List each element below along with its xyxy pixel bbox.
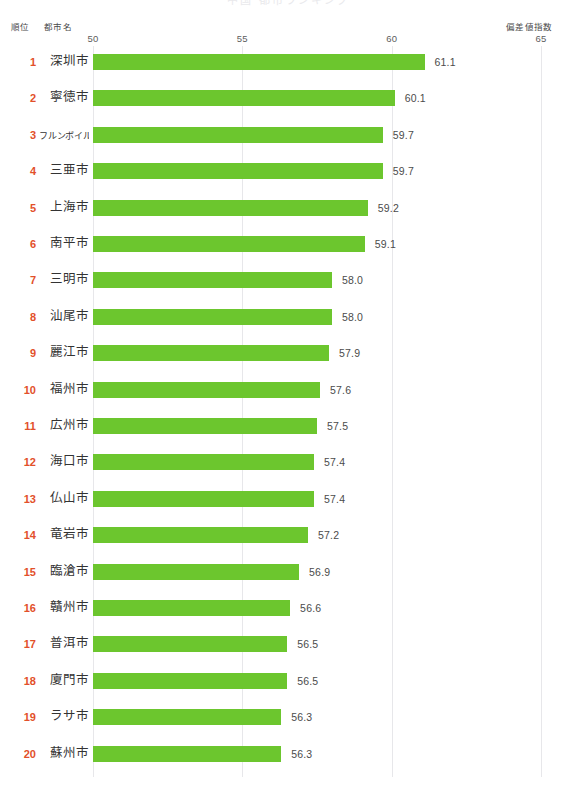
table-row: 9麗江市57.9: [0, 345, 577, 377]
table-row: 19ラサ市56.3: [0, 709, 577, 741]
bar: [93, 163, 383, 179]
bar-value-label: 58.0: [342, 310, 363, 324]
city-name-label: 普洱市: [39, 635, 89, 651]
rank-number: 8: [0, 309, 36, 325]
bar: [93, 236, 365, 252]
table-row: 18廈門市56.5: [0, 673, 577, 705]
clipped-chart-title: 中国 都市ランキング: [0, 0, 577, 13]
column-header-rank: 順位: [11, 20, 30, 32]
city-name-label: フルンボイル市: [39, 128, 89, 144]
city-name-label: 三亜市: [39, 162, 89, 178]
city-name-label: 寧徳市: [39, 89, 89, 105]
bar: [93, 90, 395, 106]
axis-tick-label-50: 50: [88, 33, 99, 44]
city-name-label: 三明市: [39, 271, 89, 287]
city-name-label: ラサ市: [39, 708, 89, 724]
bar: [93, 54, 425, 70]
bar-value-label: 58.0: [342, 273, 363, 287]
table-row: 20蘇州市56.3: [0, 746, 577, 778]
table-row: 5上海市59.2: [0, 200, 577, 232]
axis-tick-label-60: 60: [386, 33, 397, 44]
rank-number: 7: [0, 272, 36, 288]
bar-value-label: 56.3: [291, 710, 312, 724]
table-row: 14竜岩市57.2: [0, 527, 577, 559]
bar-value-label: 57.6: [330, 383, 351, 397]
table-row: 12海口市57.4: [0, 454, 577, 486]
table-row: 3フルンボイル市59.7: [0, 127, 577, 159]
city-name-label: 南平市: [39, 235, 89, 251]
bar: [93, 382, 320, 398]
bar: [93, 127, 383, 143]
bar-value-label: 57.5: [327, 419, 348, 433]
bar-value-label: 56.9: [309, 565, 330, 579]
rank-number: 14: [0, 527, 36, 543]
bar: [93, 345, 329, 361]
rank-number: 2: [0, 90, 36, 106]
rank-number: 13: [0, 491, 36, 507]
table-row: 13仏山市57.4: [0, 491, 577, 523]
table-row: 6南平市59.1: [0, 236, 577, 268]
city-name-label: 廈門市: [39, 672, 89, 688]
bar-value-label: 56.5: [297, 637, 318, 651]
rank-number: 5: [0, 200, 36, 216]
city-name-label: 仏山市: [39, 490, 89, 506]
table-row: 15臨滄市56.9: [0, 564, 577, 596]
city-name-label: 麗江市: [39, 344, 89, 360]
bar: [93, 709, 281, 725]
rank-number: 17: [0, 636, 36, 652]
city-name-label: 贛州市: [39, 599, 89, 615]
bar: [93, 564, 299, 580]
city-name-label: 汕尾市: [39, 308, 89, 324]
bar: [93, 636, 287, 652]
rank-number: 11: [0, 418, 36, 434]
city-name-label: 福州市: [39, 381, 89, 397]
bar: [93, 454, 314, 470]
bar: [93, 272, 332, 288]
bar: [93, 200, 368, 216]
axis-tick-label-65: 65: [536, 33, 547, 44]
bar-value-label: 57.4: [324, 455, 345, 469]
table-row: 10福州市57.6: [0, 382, 577, 414]
rank-number: 10: [0, 382, 36, 398]
rank-number: 12: [0, 454, 36, 470]
column-header-city: 都市名: [44, 20, 72, 32]
table-row: 11広州市57.5: [0, 418, 577, 450]
bar-value-label: 57.9: [339, 346, 360, 360]
bar: [93, 309, 332, 325]
bar-value-label: 59.2: [378, 201, 399, 215]
rank-number: 1: [0, 54, 36, 70]
city-name-label: 竜岩市: [39, 526, 89, 542]
axis-tick-label-55: 55: [237, 33, 248, 44]
city-name-label: 蘇州市: [39, 745, 89, 761]
table-row: 4三亜市59.7: [0, 163, 577, 195]
bar: [93, 527, 308, 543]
rank-number: 20: [0, 746, 36, 762]
bar-value-label: 61.1: [435, 55, 456, 69]
city-name-label: 広州市: [39, 417, 89, 433]
rank-number: 19: [0, 709, 36, 725]
bar-value-label: 60.1: [405, 91, 426, 105]
chart-title-text: 中国 都市ランキング: [227, 0, 349, 7]
bar: [93, 746, 281, 762]
bar-value-label: 56.5: [297, 674, 318, 688]
bar-value-label: 59.1: [375, 237, 396, 251]
rank-number: 6: [0, 236, 36, 252]
bar-value-label: 59.7: [393, 164, 414, 178]
rank-number: 9: [0, 345, 36, 361]
bar: [93, 600, 290, 616]
table-row: 2寧徳市60.1: [0, 90, 577, 122]
bar: [93, 491, 314, 507]
table-row: 17普洱市56.5: [0, 636, 577, 668]
bar-value-label: 59.7: [393, 128, 414, 142]
bar-value-label: 57.4: [324, 492, 345, 506]
rank-number: 15: [0, 564, 36, 580]
city-name-label: 深圳市: [39, 53, 89, 69]
bar-value-label: 57.2: [318, 528, 339, 542]
rank-number: 4: [0, 163, 36, 179]
column-header-index: 偏差値指数: [506, 20, 553, 32]
city-ranking-bar-chart: 中国 都市ランキング 順位 都市名 偏差値指数 50556065 1深圳市61.…: [0, 0, 577, 785]
rank-number: 18: [0, 673, 36, 689]
table-row: 1深圳市61.1: [0, 54, 577, 86]
bar: [93, 673, 287, 689]
city-name-label: 海口市: [39, 453, 89, 469]
